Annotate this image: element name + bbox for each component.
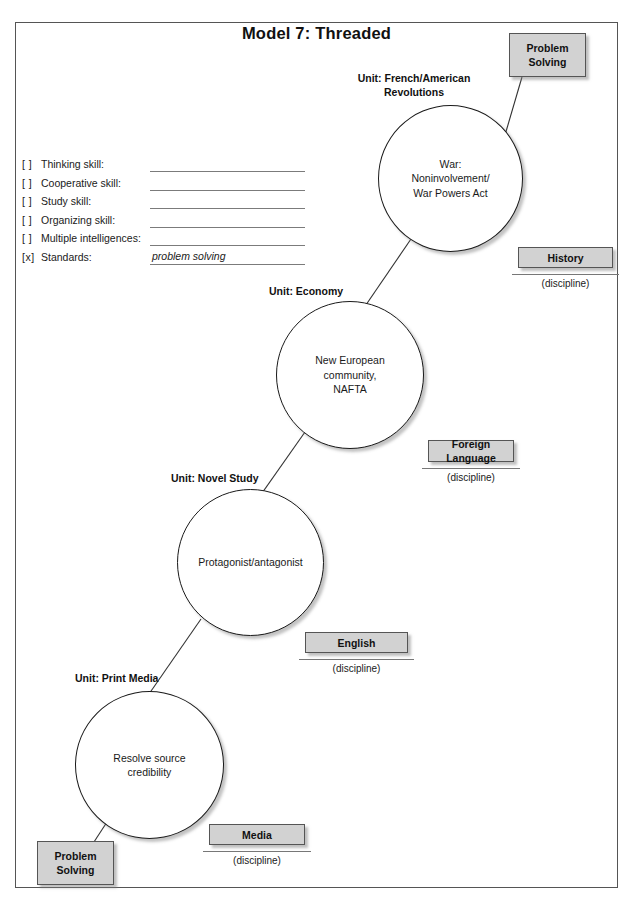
checklist-label-organizing-skill: Organizing skill: [41, 214, 115, 226]
discipline-rule-english [299, 659, 414, 660]
discipline-caption-foreign-language: (discipline) [422, 472, 520, 483]
tag-box-media[interactable]: Media [209, 824, 305, 845]
checklist-row[interactable]: [ ] Thinking skill: [22, 157, 312, 176]
discipline-rule-foreign-language [422, 468, 520, 469]
checklist-row[interactable]: [ ] Multiple intelligences: [22, 231, 312, 250]
checklist-rule [150, 227, 305, 228]
tag-box-problem-solving-top[interactable]: Problem Solving [509, 33, 586, 77]
checkbox-multiple-intelligences[interactable]: [ ] [22, 232, 32, 244]
checklist-value-standards: problem solving [152, 250, 226, 262]
checklist-rule [150, 208, 305, 209]
checklist-rule [150, 264, 305, 265]
tag-box-history[interactable]: History [518, 247, 613, 268]
node-circle-french-american-revolutions[interactable]: War: Noninvolvement/ War Powers Act [378, 105, 523, 252]
attributes-checklist: [ ] Thinking skill: [ ] Cooperative skil… [22, 157, 312, 268]
checklist-label-multiple-intelligences: Multiple intelligences: [41, 232, 141, 244]
tag-box-problem-solving-bottom[interactable]: Problem Solving [37, 841, 114, 885]
node-circle-print-media[interactable]: Resolve source credibility [75, 691, 224, 839]
unit-label-novel-study: Unit: Novel Study [171, 472, 321, 486]
checklist-row[interactable]: [ ] Organizing skill: [22, 213, 312, 232]
checklist-row[interactable]: [x] Standards: problem solving [22, 250, 312, 269]
discipline-caption-media: (discipline) [203, 855, 311, 866]
unit-label-print-media: Unit: Print Media [75, 672, 225, 686]
checkbox-cooperative-skill[interactable]: [ ] [22, 177, 32, 189]
node-text-novel-study: Protagonist/antagonist [186, 555, 315, 570]
node-text-print-media: Resolve source credibility [101, 751, 197, 780]
node-circle-economy[interactable]: New European community, NAFTA [276, 301, 424, 449]
discipline-caption-history: (discipline) [512, 278, 619, 289]
checklist-label-study-skill: Study skill: [41, 195, 91, 207]
diagram-page: Model 7: Threaded [ ] Thinking skill: [ … [0, 0, 635, 906]
checklist-row[interactable]: [ ] Cooperative skill: [22, 176, 312, 195]
checklist-row[interactable]: [ ] Study skill: [22, 194, 312, 213]
node-circle-novel-study[interactable]: Protagonist/antagonist [177, 489, 324, 636]
unit-label-french-american-revolutions: Unit: French/American Revolutions [342, 72, 486, 99]
node-text-economy: New European community, NAFTA [303, 353, 396, 397]
checklist-rule [150, 171, 305, 172]
checklist-label-cooperative-skill: Cooperative skill: [41, 177, 121, 189]
checkbox-standards[interactable]: [x] [22, 251, 35, 263]
checkbox-thinking-skill[interactable]: [ ] [22, 158, 32, 170]
tag-box-foreign-language[interactable]: Foreign Language [428, 440, 514, 462]
discipline-rule-media [203, 851, 311, 852]
checklist-label-standards: Standards: [41, 251, 92, 263]
unit-label-economy: Unit: Economy [269, 285, 409, 299]
node-text-french-american-revolutions: War: Noninvolvement/ War Powers Act [399, 157, 501, 201]
discipline-rule-history [512, 274, 619, 275]
checkbox-study-skill[interactable]: [ ] [22, 195, 32, 207]
discipline-caption-english: (discipline) [299, 663, 414, 674]
checkbox-organizing-skill[interactable]: [ ] [22, 214, 32, 226]
tag-box-english[interactable]: English [305, 632, 408, 653]
checklist-rule [150, 190, 305, 191]
checklist-label-thinking-skill: Thinking skill: [41, 158, 104, 170]
checklist-rule [150, 245, 305, 246]
